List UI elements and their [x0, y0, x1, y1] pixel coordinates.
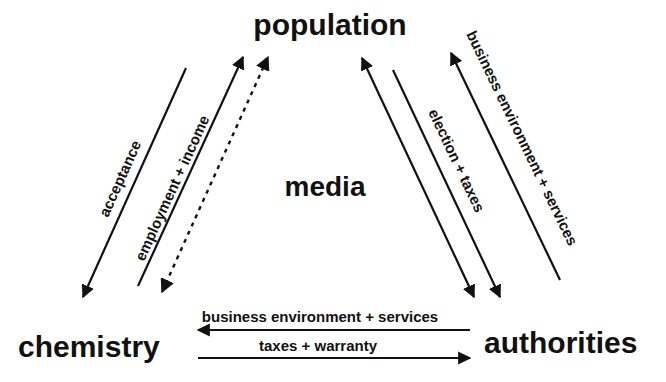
arrow-employment-income: [138, 57, 243, 286]
label-business-services-bottom: business environment + services: [202, 308, 438, 325]
label-taxes-warranty: taxes + warranty: [259, 337, 378, 354]
node-authorities: authorities: [484, 326, 637, 359]
label-employment-income: employment + income: [131, 113, 212, 264]
stakeholder-diagram: population media chemistry authorities a…: [0, 0, 666, 382]
node-population: population: [253, 8, 406, 41]
arrow-election-taxes: [393, 70, 500, 297]
node-chemistry: chemistry: [18, 330, 160, 363]
node-media: media: [285, 171, 366, 202]
label-business-services-right: business environment + services: [463, 28, 581, 248]
